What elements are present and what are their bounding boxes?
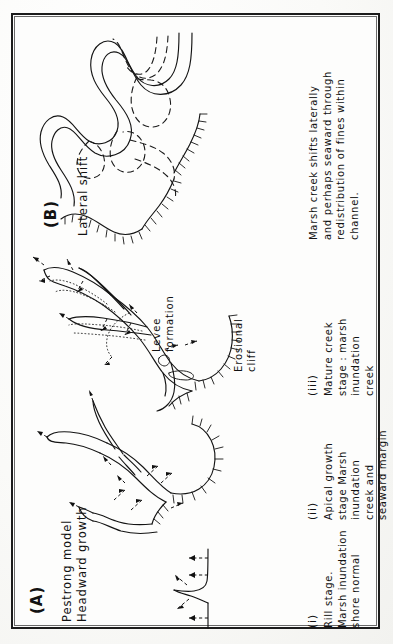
panel-a-letter: (A) (28, 586, 46, 614)
figure-page: (B) Lateral shift Marsh creek shifts lat… (0, 0, 393, 644)
levee-formation-label: Levee formation (150, 295, 176, 352)
stage-i-caption: Rill stage. Marsh inundation shore norma… (322, 530, 363, 628)
panel-a-stage-i-artwork (174, 549, 208, 629)
panel-b-heading: Lateral shift (76, 156, 91, 236)
stage-i-roman: (i) (306, 614, 318, 628)
panel-b-hachure-upper (175, 114, 207, 175)
panel-b-letter: (B) (42, 200, 60, 228)
stage-ii-caption: Apical growth stage Marsh inundation cre… (322, 430, 390, 520)
erosional-cliff-label: Erosional cliff (232, 318, 258, 372)
panel-a-heading: Pestrong model Headward growth (60, 506, 90, 622)
stage-ii-roman: (ii) (306, 502, 318, 520)
panel-b-caption: Marsh creek shifts laterally and perhaps… (307, 71, 361, 240)
stage-iii-caption: Mature creek stage : marsh inundation cr… (322, 318, 376, 396)
panel-b-hachure-mid (145, 181, 181, 231)
stage-iii-roman: (iii) (306, 374, 318, 396)
panel-a-stage-iii-artwork (33, 257, 240, 411)
stage-ii-growth-arrows (37, 390, 183, 510)
panel-b-artwork (40, 33, 207, 244)
